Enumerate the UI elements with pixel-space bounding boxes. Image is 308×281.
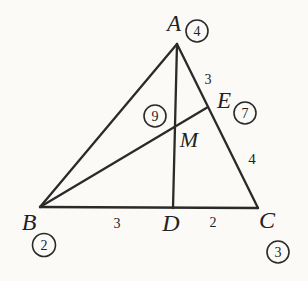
geometry-figure: A B C D E M 3 4 3 2 4 7 9 2 3	[0, 0, 308, 281]
circled-number-near-A: 4	[186, 20, 208, 42]
length-label-EC: 4	[248, 151, 256, 167]
point-label-M: M	[179, 127, 200, 152]
circled-digit-near-C: 3	[275, 245, 282, 260]
point-label-D: D	[161, 210, 179, 236]
cevian-BE	[40, 107, 208, 207]
side-AB	[40, 44, 177, 207]
circled-number-near-M: 9	[144, 105, 166, 127]
circled-digit-near-A: 4	[194, 24, 201, 39]
circled-number-near-B: 2	[33, 234, 56, 257]
point-label-E: E	[216, 88, 231, 113]
circled-number-near-C: 3	[267, 241, 289, 263]
side-AC	[177, 44, 258, 208]
length-label-BD: 3	[114, 216, 121, 231]
circled-digit-near-B: 2	[41, 238, 48, 253]
circled-digit-near-E: 7	[242, 106, 249, 121]
vertex-label-C: C	[259, 207, 276, 233]
circled-digit-near-M: 9	[152, 109, 159, 124]
vertex-label-A: A	[165, 11, 182, 36]
length-label-AE: 3	[205, 72, 212, 87]
side-BC	[40, 207, 258, 208]
triangle-diagram: A B C D E M 3 4 3 2 4 7 9 2 3	[0, 0, 308, 281]
circled-number-near-E: 7	[234, 102, 256, 124]
vertex-label-B: B	[22, 209, 37, 235]
length-label-DC: 2	[210, 215, 217, 230]
